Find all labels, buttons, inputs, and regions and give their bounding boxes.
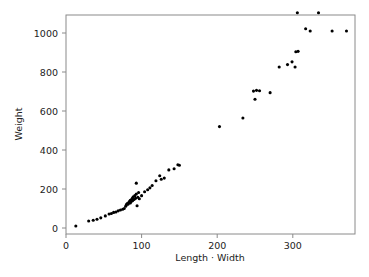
figure-background xyxy=(0,0,369,277)
data-point xyxy=(241,116,244,119)
y-tick-label: 400 xyxy=(40,145,58,156)
data-point xyxy=(345,30,348,33)
data-point xyxy=(92,219,95,222)
data-point xyxy=(104,214,107,217)
y-tick-label: 1000 xyxy=(34,28,58,39)
data-point xyxy=(278,65,281,68)
data-point xyxy=(135,182,138,185)
y-tick-label: 800 xyxy=(40,67,58,78)
x-axis-title: Length · Width xyxy=(175,252,244,263)
data-point xyxy=(74,225,77,228)
y-tick-label: 600 xyxy=(40,106,58,117)
data-point xyxy=(148,186,151,189)
plot-canvas: 02004006008001000 0100200300 Weight Leng… xyxy=(0,0,369,277)
data-point xyxy=(154,179,157,182)
data-point xyxy=(87,219,90,222)
data-point xyxy=(252,90,255,93)
data-point xyxy=(255,89,258,92)
data-point xyxy=(173,167,176,170)
data-point xyxy=(99,216,102,219)
data-point xyxy=(167,168,170,171)
data-point xyxy=(136,204,139,207)
data-point xyxy=(286,63,289,66)
data-point xyxy=(137,191,140,194)
data-point xyxy=(158,174,161,177)
data-point xyxy=(178,164,181,167)
data-point xyxy=(140,194,143,197)
y-axis-title: Weight xyxy=(13,107,24,140)
data-point xyxy=(95,218,98,221)
data-point xyxy=(304,27,307,30)
data-point xyxy=(309,30,312,33)
data-point xyxy=(269,91,272,94)
data-point xyxy=(297,50,300,53)
x-tick-label: 300 xyxy=(284,240,302,251)
x-tick-label: 100 xyxy=(133,240,151,251)
data-point xyxy=(331,30,334,33)
data-point xyxy=(296,11,299,14)
data-point xyxy=(163,177,166,180)
data-point xyxy=(253,98,256,101)
x-tick-label: 200 xyxy=(208,240,226,251)
data-point xyxy=(317,11,320,14)
data-point xyxy=(160,178,163,181)
data-point xyxy=(290,60,293,63)
data-point xyxy=(138,197,141,200)
data-point xyxy=(258,89,261,92)
scatter-plot-figure: 02004006008001000 0100200300 Weight Leng… xyxy=(0,0,369,277)
data-point xyxy=(294,65,297,68)
data-point xyxy=(218,125,221,128)
data-point xyxy=(143,190,146,193)
y-tick-label: 0 xyxy=(52,223,58,234)
y-tick-label: 200 xyxy=(40,184,58,195)
data-point xyxy=(151,184,154,187)
x-tick-label: 0 xyxy=(63,240,69,251)
